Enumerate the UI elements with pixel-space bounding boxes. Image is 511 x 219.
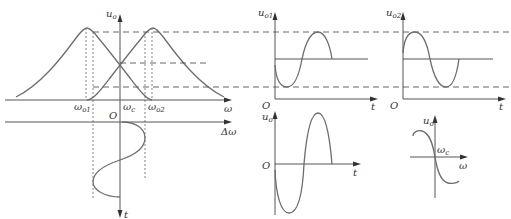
uo-origin-label: O <box>262 160 270 171</box>
uo1-origin-label: O <box>262 100 270 111</box>
s-curve-x-arrow-icon <box>460 155 468 160</box>
uo2-t-label: t <box>499 101 504 112</box>
input-deviation-curve <box>93 122 145 197</box>
uo-y-arrow-icon <box>273 111 278 119</box>
tick-label-omega-o1: ωo1 <box>74 101 91 114</box>
uo-y-label: uo <box>262 111 273 124</box>
uo1-plot: uo1 O t <box>258 7 378 112</box>
diagram-canvas: uo ω ωo1 ωc ωo2 O Δω t uo1 O t uo2 O t <box>0 0 511 219</box>
main-x-label: ω <box>224 103 232 114</box>
t-axis-label: t <box>124 209 129 219</box>
resonance-curve-o2 <box>87 28 224 100</box>
s-curve-y-label: uo <box>423 115 434 128</box>
s-curve-x-label: ω <box>459 160 467 171</box>
uo2-plot: uo2 O t <box>386 7 506 112</box>
delta-omega-label: Δω <box>220 126 236 137</box>
input-deviation-plot: O Δω t <box>5 110 236 219</box>
tick-label-omega-o2: ωo2 <box>148 101 165 114</box>
t-axis-arrow-icon <box>118 210 123 218</box>
uo-t-label: t <box>353 167 358 178</box>
uo2-y-arrow-icon <box>401 12 406 20</box>
uo2-origin-label: O <box>390 100 398 111</box>
omega-axis-arrow-icon <box>224 98 232 103</box>
s-curve-plot: uo ωc ω <box>410 115 468 198</box>
uo1-y-label: uo1 <box>258 7 273 20</box>
uo-waveform <box>275 113 332 213</box>
delta-omega-arrow-icon <box>224 120 232 125</box>
s-curve-center-label: ωc <box>437 144 449 157</box>
uo-axis-arrow-icon <box>118 14 123 22</box>
resonance-curve-o1 <box>16 28 152 100</box>
uo-plot: uo O t <box>262 111 361 215</box>
uo-t-arrow-icon <box>353 162 361 167</box>
main-y-label: uo <box>106 8 117 21</box>
input-origin-label: O <box>109 110 117 121</box>
uo2-y-label: uo2 <box>386 7 402 20</box>
uo1-t-label: t <box>371 101 376 112</box>
tick-label-omega-c: ωc <box>123 101 135 114</box>
uo1-y-arrow-icon <box>273 12 278 20</box>
